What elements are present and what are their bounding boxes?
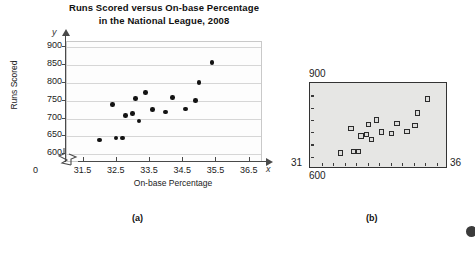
- plot-area: [66, 41, 262, 162]
- y-tick-label: 800: [33, 76, 62, 86]
- data-point: [170, 95, 175, 100]
- calc-x-tick: [368, 163, 369, 166]
- scatter-plot-panel-a: Runs Scored versus On-base Percentage in…: [0, 0, 285, 215]
- calc-x-tick: [414, 163, 415, 166]
- origin-label: 0: [33, 165, 38, 175]
- x-tick-mark: [249, 157, 250, 162]
- x-tick-label: 34.5: [169, 165, 195, 175]
- x-tick-label: 36.5: [236, 165, 262, 175]
- calc-y-tick: [311, 95, 314, 96]
- calc-data-point: [369, 137, 374, 142]
- y-axis-title: Runs Scored: [9, 53, 19, 117]
- gridline: [67, 83, 261, 84]
- y-tick-mark: [62, 135, 66, 136]
- calc-x-min-label: 31: [291, 157, 302, 168]
- gridline: [67, 119, 261, 120]
- calc-data-point: [374, 117, 379, 122]
- x-tick-mark: [83, 157, 84, 162]
- data-point: [110, 102, 115, 107]
- calc-x-tick: [379, 163, 380, 166]
- calc-y-tick: [311, 157, 314, 158]
- y-tick-label: 700: [33, 112, 62, 122]
- calc-y-min-label: 600: [309, 170, 326, 181]
- y-tick-mark: [62, 46, 66, 47]
- calc-data-point: [412, 123, 417, 128]
- panel-label-b: (b): [366, 213, 378, 223]
- x-tick-mark: [215, 157, 216, 162]
- data-point: [197, 80, 202, 85]
- x-tick-mark: [149, 157, 150, 162]
- gridline: [67, 154, 261, 155]
- y-tick-mark: [62, 82, 66, 83]
- y-tick-label: 900: [33, 40, 62, 50]
- data-point: [193, 98, 198, 103]
- calc-data-point: [379, 129, 384, 134]
- calc-x-max-label: 36: [450, 157, 461, 168]
- calc-data-point: [415, 110, 420, 115]
- y-tick-mark: [62, 118, 66, 119]
- chart-title-line-1: Runs Scored versus On-base Percentage: [48, 2, 280, 15]
- x-tick-label: 32.5: [103, 165, 129, 175]
- calc-data-point: [425, 96, 430, 101]
- calculator-screen: [309, 82, 447, 168]
- calc-x-tick: [402, 163, 403, 166]
- calc-x-tick: [322, 163, 323, 166]
- y-axis-symbol: y: [52, 27, 57, 37]
- data-point: [97, 138, 102, 143]
- x-tick-mark: [116, 157, 117, 162]
- calc-data-point: [338, 150, 343, 155]
- calc-x-tick: [391, 163, 392, 166]
- x-tick-label: 33.5: [136, 165, 162, 175]
- data-point: [150, 107, 155, 112]
- calc-data-point: [366, 122, 371, 127]
- calc-y-tick: [311, 132, 314, 133]
- x-tick-mark: [182, 157, 183, 162]
- calc-x-tick: [333, 163, 334, 166]
- gridline: [67, 101, 261, 102]
- page-corner-dot: [466, 226, 475, 237]
- data-point: [133, 96, 138, 101]
- calc-y-tick: [311, 120, 314, 121]
- y-tick-label: 650: [33, 129, 62, 139]
- axis-break-icon: [58, 148, 80, 166]
- gridline: [67, 65, 261, 66]
- calc-y-tick: [311, 108, 314, 109]
- data-point: [130, 111, 135, 116]
- data-point: [120, 136, 125, 141]
- calc-x-tick: [356, 163, 357, 166]
- gridline: [67, 47, 261, 48]
- calc-x-tick: [425, 163, 426, 166]
- y-tick-mark: [62, 100, 66, 101]
- gridline: [67, 136, 261, 137]
- x-tick-label: 31.5: [70, 165, 96, 175]
- calc-x-tick: [437, 163, 438, 166]
- y-tick-label: 850: [33, 58, 62, 68]
- calc-y-tick: [311, 144, 314, 145]
- calc-data-point: [356, 149, 361, 154]
- x-axis-title: On-base Percentage: [78, 178, 268, 188]
- x-tick-label: 35.5: [202, 165, 228, 175]
- panel-label-a: (a): [132, 213, 143, 223]
- x-axis-line: [78, 161, 268, 162]
- x-axis-symbol: x: [266, 164, 271, 174]
- calc-y-max-label: 900: [309, 68, 326, 79]
- y-tick-mark: [62, 64, 66, 65]
- data-point: [210, 60, 215, 65]
- calc-data-point: [348, 126, 353, 131]
- chart-title: Runs Scored versus On-base Percentage in…: [48, 2, 280, 27]
- y-tick-label: 750: [33, 94, 62, 104]
- data-point: [183, 107, 188, 112]
- data-point: [143, 90, 148, 95]
- calc-data-point: [389, 131, 394, 136]
- y-axis-arrow: [62, 29, 70, 36]
- calc-data-point: [394, 121, 399, 126]
- calc-x-tick: [345, 163, 346, 166]
- footer: Now Work PROBLEM 11(a): [0, 232, 475, 262]
- chart-title-line-2: in the National League, 2008: [48, 15, 280, 28]
- calc-data-point: [404, 129, 409, 134]
